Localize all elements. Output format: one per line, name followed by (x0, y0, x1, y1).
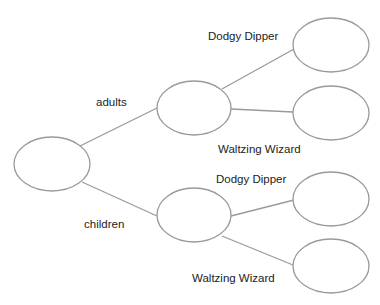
label-adults-dodgy-dipper: Dodgy Dipper (208, 30, 278, 42)
adults-dodgy-dipper-node (293, 18, 369, 72)
tree-diagram: adults children Dodgy Dipper Waltzing Wi… (0, 0, 380, 305)
children-waltzing-wizard-node (293, 239, 369, 293)
adults-waltzing-wizard-node (293, 86, 369, 140)
edge-root-adults (80, 108, 157, 146)
edge-children-waltzing-wizard (222, 236, 293, 265)
edge-children-dodgy-dipper (231, 200, 294, 216)
label-children: children (84, 218, 124, 230)
label-children-waltzing-wizard: Waltzing Wizard (192, 272, 275, 284)
children-dodgy-dipper-node (293, 172, 369, 226)
label-adults-waltzing-wizard: Waltzing Wizard (218, 143, 301, 155)
label-children-dodgy-dipper: Dodgy Dipper (216, 173, 286, 185)
label-adults: adults (96, 96, 127, 108)
adults-node (157, 81, 231, 135)
edge-adults-waltzing-wizard (231, 109, 293, 112)
edge-root-children (82, 182, 157, 216)
edge-adults-dodgy-dipper (222, 49, 294, 89)
root-node (14, 137, 90, 191)
children-node (157, 188, 231, 242)
